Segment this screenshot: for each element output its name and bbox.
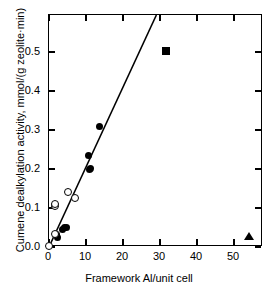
data-point-filled-triangle-0: [244, 232, 254, 240]
data-point-open-circles-1: [51, 230, 59, 238]
x-tick-1: [85, 239, 86, 245]
y-tick-label-5: 0.5: [10, 46, 40, 57]
y-tick-label-1: 0.1: [10, 202, 40, 213]
y-tick-4: [49, 90, 55, 91]
y-tick-right-1: [255, 207, 261, 208]
x-tick-4: [196, 239, 197, 245]
x-tick-5: [233, 239, 234, 245]
y-tick-5: [49, 51, 55, 52]
x-tick-3: [159, 239, 160, 245]
data-point-filled-square-0: [162, 47, 170, 55]
chart-figure: Cumene dealkylation activity, mmol/(g ze…: [0, 0, 278, 292]
x-tick-label-2: 20: [107, 251, 137, 262]
x-tick-label-3: 30: [144, 251, 174, 262]
x-tick-top-5: [233, 15, 234, 21]
y-tick-right-3: [255, 129, 261, 130]
y-tick-3: [49, 129, 55, 130]
x-tick-label-1: 10: [70, 251, 100, 262]
x-tick-top-4: [196, 15, 197, 21]
y-tick-right-4: [255, 90, 261, 91]
data-point-open-circles-0: [45, 242, 53, 250]
x-tick-label-5: 50: [218, 251, 248, 262]
y-tick-right-5: [255, 51, 261, 52]
data-point-open-circles-5: [71, 194, 79, 202]
x-tick-top-2: [122, 15, 123, 21]
y-tick-label-4: 0.4: [10, 85, 40, 96]
x-tick-top-3: [159, 15, 160, 21]
x-tick-label-4: 40: [181, 251, 211, 262]
y-tick-right-0: [255, 246, 261, 247]
x-tick-top-1: [85, 15, 86, 21]
x-axis-title: Framework Al/unit cell: [0, 272, 278, 284]
trend-line: [49, 15, 263, 247]
y-tick-2: [49, 168, 55, 169]
y-tick-label-3: 0.3: [10, 124, 40, 135]
x-tick-2: [122, 239, 123, 245]
y-tick-right-2: [255, 168, 261, 169]
x-tick-label-0: 0: [33, 251, 63, 262]
x-tick-top-0: [48, 15, 49, 21]
plot-area: [48, 14, 262, 246]
data-point-filled-circles-8: [96, 123, 103, 130]
y-tick-label-2: 0.2: [10, 163, 40, 174]
